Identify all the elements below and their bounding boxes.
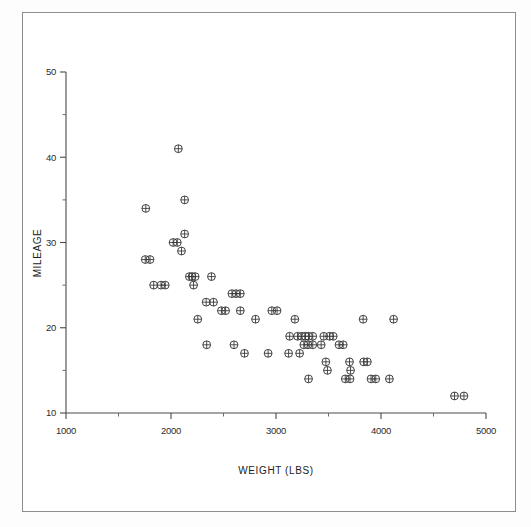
data-points	[141, 145, 467, 400]
data-point-marker	[181, 230, 189, 238]
tick-labels: 100020003000400050001020304050	[46, 66, 496, 436]
data-point-marker	[296, 349, 304, 357]
data-point-marker	[178, 247, 186, 255]
data-point-marker	[285, 349, 293, 357]
data-point-marker	[372, 375, 380, 383]
data-point-marker	[324, 366, 332, 374]
x-tick-label: 3000	[266, 425, 286, 436]
data-point-marker	[264, 349, 272, 357]
data-point-marker	[346, 375, 354, 383]
tick-marks	[60, 72, 486, 419]
y-tick-label: 30	[46, 237, 56, 248]
data-point-marker	[347, 366, 355, 374]
data-point-marker	[305, 375, 313, 383]
y-axis-title: MILEAGE	[32, 229, 43, 278]
data-point-marker	[346, 358, 354, 366]
y-tick-label: 20	[46, 322, 56, 333]
x-tick-label: 4000	[371, 425, 391, 436]
x-tick-label: 5000	[476, 425, 496, 436]
data-point-marker	[222, 307, 230, 315]
data-point-marker	[202, 298, 210, 306]
data-point-marker	[208, 273, 216, 281]
scanned-page: 100020003000400050001020304050 WEIGHT (L…	[0, 0, 531, 527]
data-point-marker	[252, 315, 260, 323]
data-point-marker	[390, 315, 398, 323]
y-tick-label: 10	[46, 407, 56, 418]
data-point-marker	[194, 315, 202, 323]
data-point-marker	[203, 341, 211, 349]
data-point-marker	[173, 239, 181, 247]
data-point-marker	[141, 256, 149, 264]
data-point-marker	[309, 341, 317, 349]
data-point-marker	[386, 375, 394, 383]
data-point-marker	[210, 298, 218, 306]
data-point-marker	[142, 205, 150, 213]
data-point-marker	[181, 196, 189, 204]
data-point-marker	[150, 281, 158, 289]
data-point-marker	[161, 281, 169, 289]
data-point-marker	[174, 145, 182, 153]
x-axis-title: WEIGHT (LBS)	[238, 465, 313, 476]
data-point-marker	[317, 341, 325, 349]
data-point-marker	[273, 307, 281, 315]
scatter-plot: 100020003000400050001020304050 WEIGHT (L…	[0, 0, 531, 527]
x-tick-label: 1000	[56, 425, 76, 436]
data-point-marker	[339, 341, 347, 349]
data-point-marker	[191, 273, 199, 281]
axes	[66, 72, 486, 413]
x-tick-label: 2000	[161, 425, 181, 436]
data-point-marker	[241, 349, 249, 357]
data-point-marker	[291, 315, 299, 323]
data-point-marker	[190, 281, 198, 289]
data-point-marker	[236, 290, 244, 298]
y-tick-label: 50	[46, 66, 56, 77]
data-point-marker	[363, 358, 371, 366]
data-point-marker	[236, 307, 244, 315]
data-point-marker	[359, 315, 367, 323]
data-point-marker	[230, 341, 238, 349]
data-point-marker	[309, 332, 317, 340]
data-point-marker	[460, 392, 468, 400]
data-point-marker	[286, 332, 294, 340]
data-point-marker	[451, 392, 459, 400]
data-point-marker	[322, 358, 330, 366]
data-point-marker	[329, 332, 337, 340]
y-tick-label: 40	[46, 152, 56, 163]
